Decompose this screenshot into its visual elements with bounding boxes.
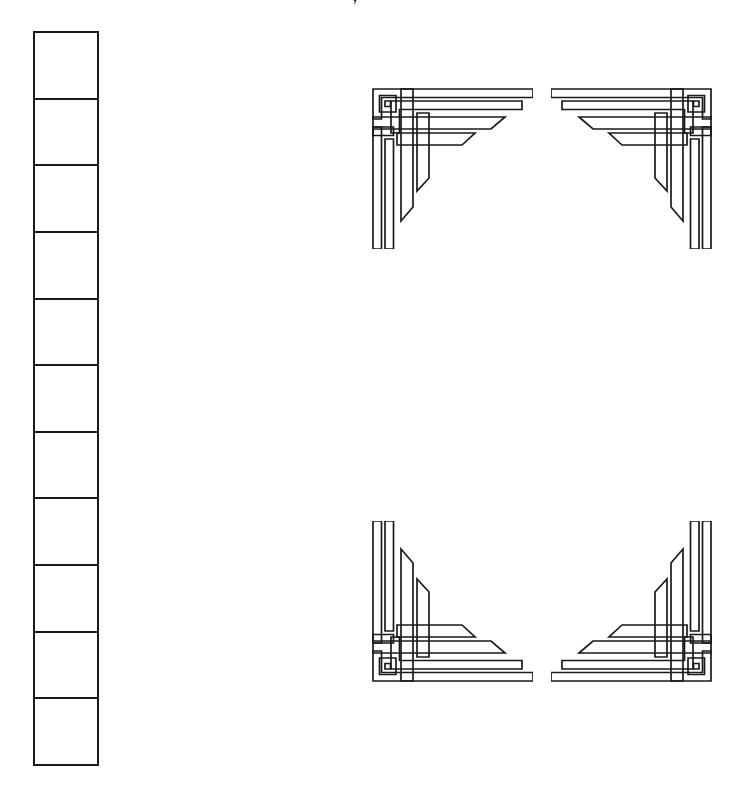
grid-cell[interactable]	[35, 433, 97, 500]
deco-corner-icon-bottom-right	[551, 521, 713, 683]
ornament-frame	[371, 87, 713, 683]
grid-cell[interactable]	[35, 33, 97, 100]
deco-corner-icon-top-left	[371, 87, 533, 249]
grid-cell[interactable]	[35, 566, 97, 633]
clipped-glyph: y	[348, 0, 362, 4]
grid-cell[interactable]	[35, 233, 97, 300]
deco-corner-icon-top-right	[551, 87, 713, 249]
page-canvas: y	[0, 0, 737, 787]
grid-cell[interactable]	[35, 166, 97, 233]
deco-corner-icon-bottom-left	[371, 521, 533, 683]
grid-cell[interactable]	[35, 300, 97, 367]
grid-cell[interactable]	[35, 633, 97, 700]
grid-cell[interactable]	[35, 100, 97, 167]
grid-cell[interactable]	[35, 699, 97, 764]
grid-cell[interactable]	[35, 499, 97, 566]
grid-cell[interactable]	[35, 366, 97, 433]
grid-column	[33, 31, 99, 766]
